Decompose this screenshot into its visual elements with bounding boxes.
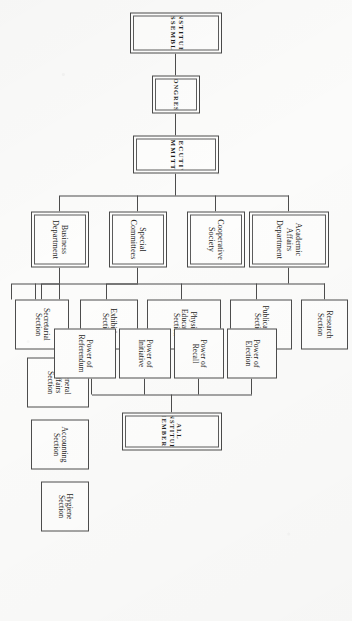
node-power-of-recall[interactable]: Power of Recall	[174, 328, 224, 378]
node-power-of-election[interactable]: Power of Election	[227, 328, 277, 378]
stub-accounting-section	[35, 283, 36, 299]
node-executive-committee-label: EXECUTIVE COMMITTEE	[136, 138, 216, 170]
node-power-of-initiative-label: Power of Initiative	[120, 329, 170, 377]
trunk-business-children	[12, 283, 60, 284]
connector-special-out	[137, 267, 138, 283]
stub-physical-education-section	[181, 283, 182, 299]
connector-academic-out	[288, 267, 289, 283]
connector-members-trunk	[171, 394, 172, 412]
node-power-of-referendum-label: Power of Referendum	[55, 329, 115, 377]
connector-congress-executive	[175, 113, 176, 135]
stub-power-of-referendum	[91, 378, 92, 394]
connector-assembly-congress	[175, 53, 176, 75]
node-accounting-section[interactable]: Accounting Section	[31, 419, 89, 469]
node-academic-affairs-department[interactable]: Academic Affairs Department	[249, 211, 329, 267]
stub-power-of-recall	[198, 378, 199, 394]
connector-business-out	[59, 267, 60, 283]
node-power-of-referendum[interactable]: Power of Referendum	[54, 328, 116, 378]
stub-academic-affairs	[288, 195, 289, 211]
stub-power-of-initiative	[144, 378, 145, 394]
node-cooperative-society-label: Cooperative Society	[190, 214, 242, 264]
node-special-committees[interactable]: Special Committees	[109, 211, 167, 267]
stub-cooperative-society	[215, 195, 216, 211]
scanned-page: CONSTITUENT ASSEMBLY CONGRESS EXECUTIVE …	[0, 0, 352, 621]
node-research-section-label: Research Section	[302, 300, 347, 348]
node-executive-committee[interactable]: EXECUTIVE COMMITTEE	[133, 135, 219, 173]
node-accounting-section-label: Accounting Section	[32, 420, 88, 468]
node-congress[interactable]: CONGRESS	[152, 75, 200, 113]
node-constituent-assembly[interactable]: CONSTITUENT ASSEMBLY	[130, 12, 222, 53]
node-business-department[interactable]: Business Department	[31, 211, 89, 267]
stub-power-of-election	[251, 378, 252, 394]
stub-special-committees	[137, 195, 138, 211]
trunk-constituent-powers	[92, 394, 252, 395]
trunk-executive-children	[60, 195, 289, 196]
node-power-of-recall-label: Power of Recall	[175, 329, 223, 377]
stub-publications-section	[256, 283, 257, 299]
stub-exhibition-section	[106, 283, 107, 299]
node-cooperative-society[interactable]: Cooperative Society	[187, 211, 245, 267]
node-research-section[interactable]: Research Section	[301, 299, 348, 349]
stub-hygiene-section	[11, 283, 12, 299]
stub-research-section	[324, 283, 325, 299]
node-business-department-label: Business Department	[34, 214, 86, 264]
stub-business-department	[59, 195, 60, 211]
node-power-of-election-label: Power of Election	[228, 329, 276, 377]
node-hygiene-section-label: Hygiene Section	[42, 482, 88, 530]
node-hygiene-section[interactable]: Hygiene Section	[41, 481, 89, 531]
node-constituent-assembly-label: CONSTITUENT ASSEMBLY	[133, 15, 219, 50]
trunk-academic-children	[107, 283, 325, 284]
node-all-constituent-members[interactable]: ALL CONSTITUENT MEMBERS	[122, 412, 222, 450]
stub-general-affairs-section	[59, 283, 60, 299]
node-special-committees-label: Special Committees	[112, 214, 164, 264]
stub-secretarial-section	[41, 283, 42, 299]
node-all-constituent-members-label: ALL CONSTITUENT MEMBERS	[125, 415, 219, 447]
organization-chart: CONSTITUENT ASSEMBLY CONGRESS EXECUTIVE …	[0, 0, 352, 621]
node-congress-label: CONGRESS	[155, 78, 197, 110]
connector-executive-trunk	[175, 173, 176, 195]
node-power-of-initiative[interactable]: Power of Initiative	[119, 328, 171, 378]
node-academic-affairs-department-label: Academic Affairs Department	[252, 214, 326, 264]
